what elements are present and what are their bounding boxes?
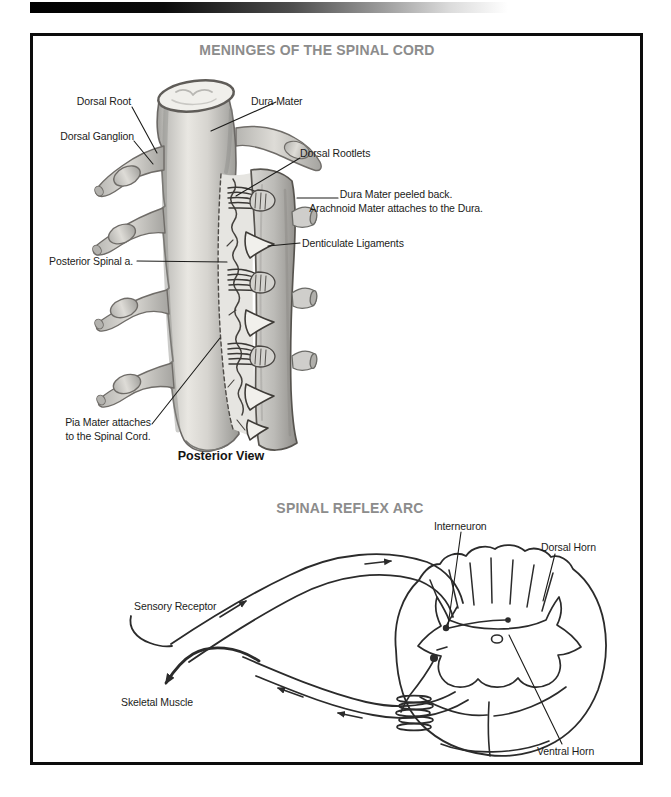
label-sensory-receptor: Sensory Receptor: [134, 600, 216, 612]
meninges-title: MENINGES OF THE SPINAL CORD: [117, 42, 517, 58]
reflex-title: SPINAL REFLEX ARC: [150, 500, 550, 516]
textbook-page: MENINGES OF THE SPINAL CORD Dorsal Root …: [0, 0, 671, 797]
label-posterior-spinal-artery: Posterior Spinal a.: [45, 255, 133, 267]
label-dorsal-ganglion: Dorsal Ganglion: [48, 130, 134, 142]
posterior-view-caption: Posterior View: [161, 449, 281, 463]
label-skeletal-muscle: Skeletal Muscle: [121, 696, 193, 708]
label-dura-mater: Dura Mater: [251, 95, 303, 107]
label-dura-peeled-line2: Arachnoid Mater attaches to the Dura.: [296, 201, 496, 215]
label-pia-mater-line1: Pia Mater attaches: [52, 415, 164, 429]
label-dorsal-horn: Dorsal Horn: [541, 541, 596, 553]
page-border-frame: [30, 33, 643, 765]
label-dura-peeled: Dura Mater peeled back. Arachnoid Mater …: [296, 187, 496, 215]
label-dura-peeled-line1: Dura Mater peeled back.: [296, 187, 496, 201]
label-ventral-horn: Ventral Horn: [537, 745, 594, 757]
label-pia-mater-line2: to the Spinal Cord.: [52, 429, 164, 443]
label-interneuron: Interneuron: [434, 520, 487, 532]
label-pia-mater: Pia Mater attaches to the Spinal Cord.: [52, 415, 164, 443]
label-dorsal-rootlets: Dorsal Rootlets: [300, 147, 370, 159]
label-denticulate-ligaments: Denticulate Ligaments: [302, 237, 404, 249]
page-header-bar: [30, 2, 508, 13]
label-dorsal-root: Dorsal Root: [61, 95, 131, 107]
